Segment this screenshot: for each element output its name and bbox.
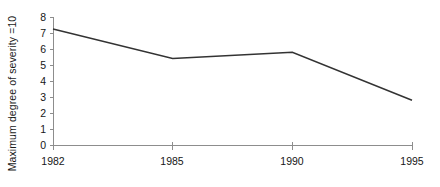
y-axis-ticks: 0 1 2 3 4 5 6 7 8 <box>40 11 53 151</box>
x-tick-label: 1985 <box>160 155 184 167</box>
data-series-line <box>53 29 412 100</box>
y-tick-label: 4 <box>40 75 46 87</box>
y-tick-label: 3 <box>40 91 46 103</box>
y-tick-label: 5 <box>40 59 46 71</box>
x-tick-label: 1990 <box>280 155 304 167</box>
y-tick-label: 2 <box>40 107 46 119</box>
plot-area: 0 1 2 3 4 5 6 7 8 1982 1985 199 <box>0 0 440 187</box>
y-tick-label: 8 <box>40 11 46 23</box>
line-chart-figure: Maximum degree of severity =10 0 1 2 3 4… <box>0 0 440 187</box>
y-tick-label: 0 <box>40 139 46 151</box>
x-tick-label: 1982 <box>41 155 65 167</box>
x-tick-label: 1995 <box>400 155 424 167</box>
y-tick-label: 1 <box>40 123 46 135</box>
y-tick-label: 7 <box>40 27 46 39</box>
y-tick-label: 6 <box>40 43 46 55</box>
